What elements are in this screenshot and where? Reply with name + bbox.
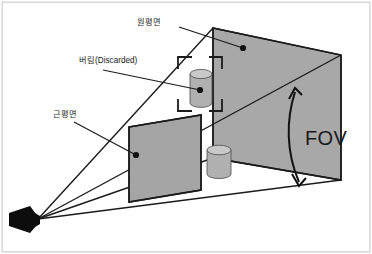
near-plane-leader-line xyxy=(74,122,136,155)
discarded-leader-dot xyxy=(197,87,203,93)
visible-cylinder xyxy=(207,145,231,178)
diagram-canvas: FOV 원평면 버림(Discarded) 근평면 xyxy=(0,0,372,254)
discarded-cylinder-top xyxy=(190,69,212,78)
far-plane-leader-dot xyxy=(240,45,246,51)
near-plane-label: 근평면 xyxy=(53,109,77,119)
discarded-leader-line xyxy=(103,70,200,90)
camera-lens-icon xyxy=(30,210,40,230)
near-plane xyxy=(129,115,201,202)
discarded-label: 버림(Discarded) xyxy=(79,55,138,65)
fov-label: FOV xyxy=(305,127,348,149)
frustum-diagram: FOV 원평면 버림(Discarded) 근평면 xyxy=(0,0,372,254)
visible-cylinder-top xyxy=(207,145,231,155)
near-plane-leader-dot xyxy=(133,152,139,158)
camera xyxy=(9,206,40,233)
far-plane-label: 원평면 xyxy=(137,17,161,27)
